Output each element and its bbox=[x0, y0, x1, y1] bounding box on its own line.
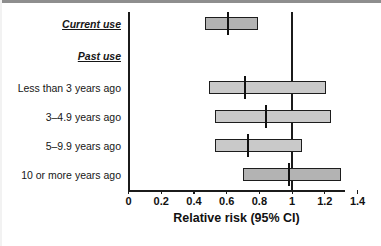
forest-plot-figure: Current use Past use Less than 3 years a… bbox=[0, 0, 381, 246]
row-label-past-use: Past use bbox=[78, 50, 121, 62]
ci-bar-row-2 bbox=[209, 81, 327, 94]
x-tick-label-7: 1.4 bbox=[350, 195, 365, 207]
x-tick-2 bbox=[193, 190, 194, 194]
ci-bar-row-3 bbox=[215, 110, 331, 123]
x-tick-label-1: 0.2 bbox=[154, 195, 169, 207]
y-axis-line bbox=[128, 12, 130, 191]
x-tick-label-6: 1.2 bbox=[317, 195, 332, 207]
ci-bar-row-5 bbox=[243, 168, 341, 181]
row-label-5-to-9-9-years: 5–9.9 years ago bbox=[46, 140, 121, 152]
x-tick-label-4: 0.8 bbox=[252, 195, 267, 207]
ci-bar-row-4 bbox=[215, 139, 302, 152]
x-tick-label-0: 0 bbox=[125, 195, 131, 207]
x-axis-title: Relative risk (95% CI) bbox=[128, 211, 345, 225]
x-tick-label-3: 0.6 bbox=[219, 195, 234, 207]
x-tick-6 bbox=[324, 190, 325, 194]
ci-bar-row-0 bbox=[205, 17, 257, 30]
reference-line-rr-1 bbox=[291, 12, 293, 191]
point-estimate-row-5 bbox=[288, 163, 290, 186]
x-tick-label-5: 1 bbox=[289, 195, 295, 207]
x-tick-label-2: 0.4 bbox=[186, 195, 201, 207]
x-tick-5 bbox=[292, 190, 293, 194]
row-label-10-or-more-years: 10 or more years ago bbox=[21, 169, 121, 181]
x-tick-0 bbox=[128, 190, 129, 194]
plot-area: Current use Past use Less than 3 years a… bbox=[0, 0, 381, 246]
point-estimate-row-4 bbox=[247, 134, 249, 157]
row-label-3-to-4-9-years: 3–4.9 years ago bbox=[46, 111, 121, 123]
point-estimate-row-3 bbox=[265, 105, 267, 128]
x-tick-1 bbox=[161, 190, 162, 194]
point-estimate-row-0 bbox=[227, 12, 229, 35]
row-label-current-use: Current use bbox=[62, 18, 121, 30]
point-estimate-row-2 bbox=[244, 76, 246, 99]
row-label-less-than-3-years: Less than 3 years ago bbox=[18, 82, 121, 94]
x-tick-7 bbox=[357, 190, 358, 194]
x-tick-3 bbox=[226, 190, 227, 194]
x-tick-4 bbox=[259, 190, 260, 194]
